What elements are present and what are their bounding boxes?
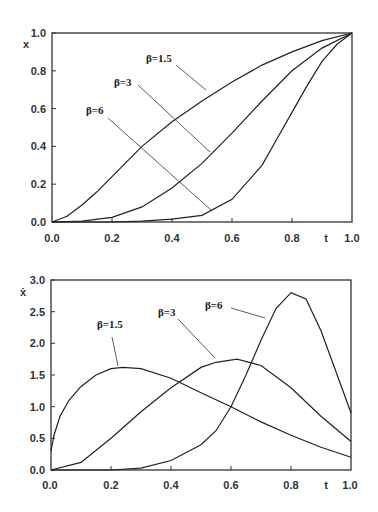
top-curve-beta-1-5 [52,33,352,222]
bottom-label-beta-6: β=6 [205,299,223,311]
top-xtick-0: 0.0 [44,232,59,244]
top-y-axis-label: x [23,38,30,50]
bottom-curve-beta-6 [51,293,351,470]
top-ytick-5: 1.0 [31,27,46,39]
top-xtick-2: 0.4 [164,232,180,244]
top-label-beta-3: β=3 [114,76,132,88]
top-ytick-0: 0.0 [31,216,46,228]
figure: 0.0 0.2 0.4 0.6 0.8 1.0 x 0.0 0.2 0.4 0.… [0,0,378,512]
bottom-ytick-6: 3.0 [30,274,45,286]
bottom-x-axis-label: t [324,479,328,491]
top-ytick-3: 0.6 [31,103,46,115]
bottom-xtick-1: 0.2 [103,479,118,491]
top-chart: 0.0 0.2 0.4 0.6 0.8 1.0 x 0.0 0.2 0.4 0.… [23,27,360,244]
bottom-xtick-0: 0.0 [42,479,57,491]
top-label-beta-1-5: β=1.5 [146,52,172,64]
bottom-ytick-4: 2.0 [30,337,45,349]
top-ytick-4: 0.8 [31,65,46,77]
top-plot-frame [52,33,352,222]
bottom-leader-beta-3 [178,319,215,358]
bottom-xtick-5: 1.0 [342,479,357,491]
top-leader-beta-1-5 [176,65,206,90]
bottom-chart: 0.0 0.5 1.0 1.5 2.0 2.5 3.0 ẋ 0.0 0.2 0.… [20,274,358,491]
bottom-y-axis-label: ẋ [20,286,27,298]
bottom-ytick-5: 2.5 [30,306,45,318]
bottom-ytick-1: 0.5 [30,432,45,444]
top-ytick-1: 0.2 [31,178,46,190]
top-ytick-2: 0.4 [31,140,47,152]
top-leader-beta-3 [138,85,210,152]
bottom-curve-beta-3 [51,359,351,470]
top-curve-beta-6 [52,33,352,222]
top-xtick-4: 0.8 [284,232,299,244]
bottom-label-beta-1-5: β=1.5 [97,318,123,330]
top-xtick-3: 0.6 [224,232,239,244]
top-xtick-1: 0.2 [104,232,119,244]
bottom-ytick-2: 1.0 [30,401,45,413]
top-x-axis-label: t [324,232,328,244]
bottom-leader-beta-6 [231,308,265,318]
bottom-xtick-4: 0.8 [283,479,298,491]
bottom-ytick-0: 0.0 [30,464,45,476]
top-label-beta-6: β=6 [86,104,104,116]
top-xtick-5: 1.0 [344,232,359,244]
top-curve-beta-3 [52,33,352,222]
bottom-curve-beta-1-5 [51,367,351,457]
bottom-xtick-2: 0.4 [163,479,179,491]
bottom-leader-beta-1-5 [112,337,118,366]
bottom-xtick-3: 0.6 [223,479,238,491]
bottom-label-beta-3: β=3 [158,306,176,318]
bottom-ytick-3: 1.5 [30,369,45,381]
